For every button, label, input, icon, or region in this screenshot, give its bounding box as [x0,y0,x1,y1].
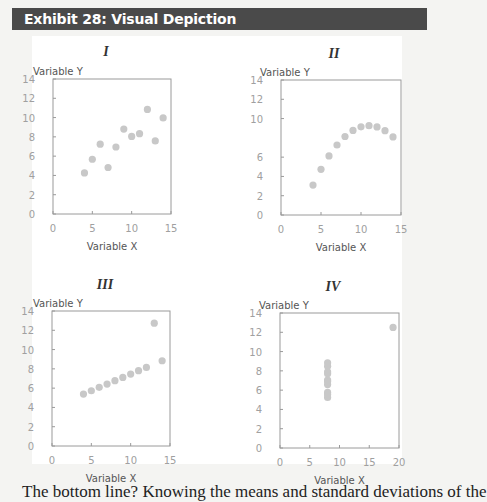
y-tick-label: 0 [256,443,262,454]
y-tick-label: 6 [256,385,262,396]
x-tick-label: 15 [363,457,376,468]
data-point [324,378,331,385]
y-tick-label: 10 [249,347,262,358]
y-tick-label: 8 [256,366,262,377]
plot-frame [280,313,399,448]
x-tick-label: 5 [307,457,313,468]
y-tick-label: 14 [249,308,262,319]
body-text: The bottom line? Knowing the means and s… [22,482,487,502]
data-point [389,324,396,331]
data-point [324,368,331,375]
x-tick-label: 0 [277,457,283,468]
y-tick-label: 4 [256,404,262,415]
chart-title: IV [325,279,342,294]
x-tick-label: 10 [333,457,346,468]
x-tick-label: 20 [393,457,406,468]
y-axis-label: Variable Y [259,300,310,311]
y-tick-label: 12 [249,327,262,338]
y-tick-label: 2 [256,424,262,435]
data-point [324,391,331,398]
